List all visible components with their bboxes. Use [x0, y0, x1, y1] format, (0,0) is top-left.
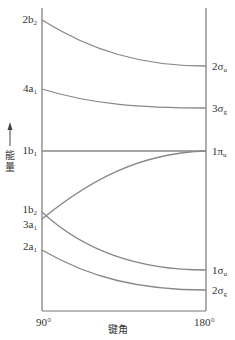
label-2b2: 2b2 — [23, 14, 38, 25]
label-2sigma-g: 2σg — [212, 285, 227, 296]
curve-3a1-1pi-u — [42, 151, 206, 219]
x-axis-label: 键角 — [108, 321, 128, 336]
curve-1b2-1sigma-u — [42, 212, 206, 270]
walsh-diagram — [0, 0, 235, 340]
curve-2a1-2sigma-g — [42, 250, 206, 290]
curve-4a1-3sigma-g — [42, 89, 206, 108]
x-tick-180: 180° — [194, 316, 215, 328]
label-1b2: 1b2 — [23, 204, 38, 215]
label-2sigma-u: 2σu — [212, 61, 227, 72]
label-3a1: 3a1 — [23, 219, 37, 230]
curve-2b2-2sigma-u — [42, 20, 206, 66]
y-axis-label: 能量 — [3, 150, 17, 174]
x-tick-90: 90° — [36, 316, 51, 328]
label-4a1: 4a1 — [23, 83, 37, 94]
up-arrow-icon — [8, 122, 13, 130]
label-1sigma-u: 1σu — [212, 265, 227, 276]
label-2a1: 2a1 — [23, 241, 37, 252]
label-1b1: 1b1 — [23, 145, 38, 156]
label-1pi-u: 1πu — [212, 146, 227, 157]
label-3sigma-g: 3σg — [212, 103, 227, 114]
